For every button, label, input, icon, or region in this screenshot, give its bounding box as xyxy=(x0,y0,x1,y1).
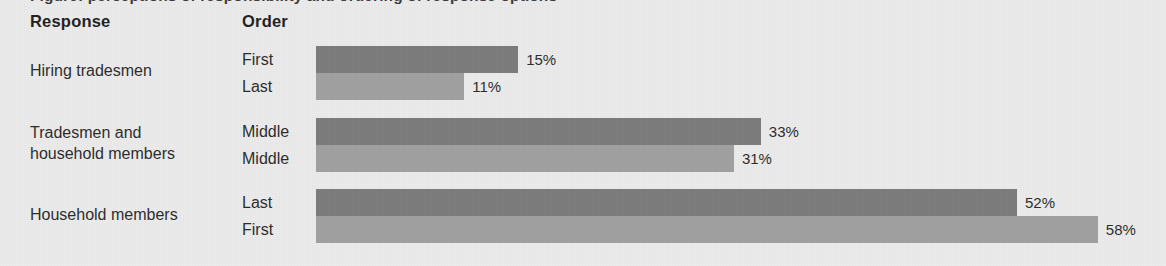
bar-value-label: 33% xyxy=(769,118,799,145)
bar xyxy=(316,118,761,145)
bar-row: First 58% xyxy=(0,216,1166,243)
bar xyxy=(316,189,1017,216)
clipped-caption: Figure: perceptions of responsibility an… xyxy=(0,0,1166,11)
bar-row: First 15% xyxy=(0,46,1166,73)
order-label: First xyxy=(242,46,273,73)
order-label: Last xyxy=(242,73,272,100)
column-header-order: Order xyxy=(242,12,288,31)
order-label: Middle xyxy=(242,145,289,172)
bar-value-label: 15% xyxy=(526,46,556,73)
column-header-response: Response xyxy=(30,12,110,31)
bar-value-label: 11% xyxy=(472,73,501,100)
bar xyxy=(316,46,518,73)
bar xyxy=(316,145,734,172)
order-label: First xyxy=(242,216,273,243)
bar-value-label: 58% xyxy=(1106,216,1136,243)
bar-value-label: 31% xyxy=(742,145,772,172)
response-order-bar-chart: Figure: perceptions of responsibility an… xyxy=(0,0,1166,266)
order-label: Middle xyxy=(242,118,289,145)
order-label: Last xyxy=(242,189,272,216)
bar-row: Last 11% xyxy=(0,73,1166,100)
bar-row: Middle 33% xyxy=(0,118,1166,145)
chart-group-hiring-tradesmen: Hiring tradesmen First 15% Last 11% xyxy=(0,46,1166,98)
chart-group-tradesmen-and-household-members: Tradesmen and household members Middle 3… xyxy=(0,118,1166,172)
chart-group-household-members: Household members Last 52% First 58% xyxy=(0,189,1166,243)
bar-row: Middle 31% xyxy=(0,145,1166,172)
bar xyxy=(316,73,464,100)
bar-row: Last 52% xyxy=(0,189,1166,216)
clipped-caption-text: Figure: perceptions of responsibility an… xyxy=(30,0,557,5)
bar-value-label: 52% xyxy=(1025,189,1055,216)
bar xyxy=(316,216,1098,243)
